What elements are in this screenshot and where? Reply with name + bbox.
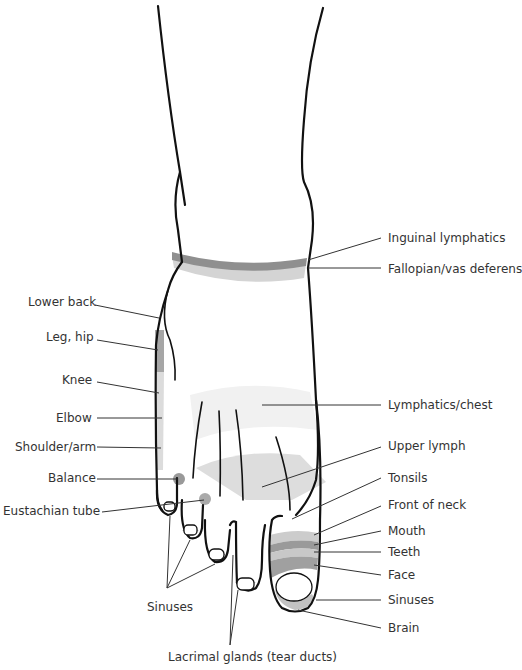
foot-outline: [156, 6, 323, 612]
label-leg-hip: Leg, hip: [46, 330, 94, 344]
label-front-of-neck: Front of neck: [388, 498, 466, 512]
label-tonsils: Tonsils: [388, 471, 427, 485]
label-brain: Brain: [388, 621, 419, 635]
label-lymphatics-chest: Lymphatics/chest: [388, 398, 492, 412]
label-balance: Balance: [48, 471, 96, 485]
label-teeth: Teeth: [388, 545, 420, 559]
reflex-zones: [155, 252, 326, 610]
label-sinuses-bottom: Sinuses: [147, 600, 193, 614]
label-inguinal-lymphatics: Inguinal lymphatics: [388, 231, 505, 245]
label-lacrimal-glands: Lacrimal glands (tear ducts): [168, 650, 337, 664]
zone-lymphatics-chest: [190, 386, 318, 440]
label-upper-lymph: Upper lymph: [388, 439, 466, 453]
label-face: Face: [388, 568, 415, 582]
label-fallopian-vas-deferens: Fallopian/vas deferens: [388, 262, 522, 276]
label-mouth: Mouth: [388, 524, 426, 538]
zone-upper-lymph: [196, 453, 326, 500]
label-sinuses-right: Sinuses: [388, 593, 434, 607]
label-lower-back: Lower back: [28, 295, 96, 309]
label-eustachian-tube: Eustachian tube: [3, 504, 100, 518]
eustachian-point: [199, 493, 211, 505]
label-knee: Knee: [62, 373, 92, 387]
label-elbow: Elbow: [56, 411, 92, 425]
label-shoulder-arm: Shoulder/arm: [15, 440, 96, 454]
